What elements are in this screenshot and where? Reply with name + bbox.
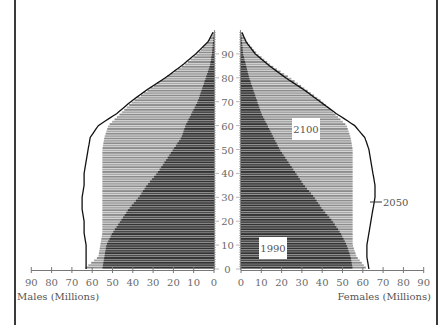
svg-text:70: 70 bbox=[66, 277, 79, 288]
svg-text:50: 50 bbox=[221, 145, 234, 156]
svg-text:80: 80 bbox=[45, 277, 58, 288]
svg-text:2100: 2100 bbox=[293, 124, 318, 135]
svg-text:80: 80 bbox=[221, 73, 234, 84]
svg-text:70: 70 bbox=[377, 277, 390, 288]
svg-text:90: 90 bbox=[417, 277, 430, 288]
svg-text:0: 0 bbox=[224, 264, 230, 275]
svg-text:20: 20 bbox=[221, 216, 234, 227]
svg-text:0: 0 bbox=[211, 277, 217, 288]
svg-text:20: 20 bbox=[167, 277, 180, 288]
svg-text:30: 30 bbox=[147, 277, 160, 288]
females-axis-title: Females (Millions) bbox=[337, 291, 431, 302]
label-2100: 2100 bbox=[292, 118, 320, 140]
svg-text:30: 30 bbox=[221, 192, 234, 203]
label-2050: 2050 bbox=[370, 197, 408, 208]
svg-text:50: 50 bbox=[336, 277, 349, 288]
svg-text:40: 40 bbox=[126, 277, 139, 288]
svg-text:90: 90 bbox=[221, 49, 234, 60]
svg-text:10: 10 bbox=[255, 277, 268, 288]
svg-text:40: 40 bbox=[316, 277, 329, 288]
svg-text:60: 60 bbox=[86, 277, 99, 288]
svg-text:0: 0 bbox=[238, 277, 244, 288]
svg-text:20: 20 bbox=[275, 277, 288, 288]
svg-text:60: 60 bbox=[221, 121, 234, 132]
svg-text:70: 70 bbox=[221, 97, 234, 108]
svg-text:2050: 2050 bbox=[383, 197, 408, 208]
svg-text:80: 80 bbox=[397, 277, 410, 288]
svg-text:10: 10 bbox=[187, 277, 200, 288]
svg-text:10: 10 bbox=[221, 240, 234, 251]
svg-text:30: 30 bbox=[296, 277, 309, 288]
svg-text:60: 60 bbox=[356, 277, 369, 288]
svg-text:40: 40 bbox=[221, 168, 234, 179]
males-axis-title: Males (Millions) bbox=[17, 291, 99, 302]
svg-text:50: 50 bbox=[106, 277, 119, 288]
svg-text:90: 90 bbox=[25, 277, 38, 288]
svg-text:1990: 1990 bbox=[260, 243, 285, 254]
population-pyramid-chart: 0010102020303040405050606070708080909001… bbox=[0, 0, 447, 325]
label-1990: 1990 bbox=[259, 237, 287, 259]
